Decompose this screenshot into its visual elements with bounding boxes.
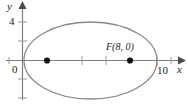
figure-canvas xyxy=(0,0,188,106)
x-axis-label: x xyxy=(177,64,182,75)
x-tick-label-10: 10 xyxy=(157,65,168,76)
right-focus-point xyxy=(127,57,133,63)
y-axis-arrow xyxy=(19,1,27,9)
ellipse-focus-figure: y x 4 0 10 F(8, 0) xyxy=(0,0,188,106)
y-axis-label: y xyxy=(7,1,12,12)
left-focus-point xyxy=(44,57,50,63)
focus-point-label: F(8, 0) xyxy=(106,42,134,52)
y-tick-label-4: 4 xyxy=(9,16,15,27)
origin-label: 0 xyxy=(12,64,18,75)
